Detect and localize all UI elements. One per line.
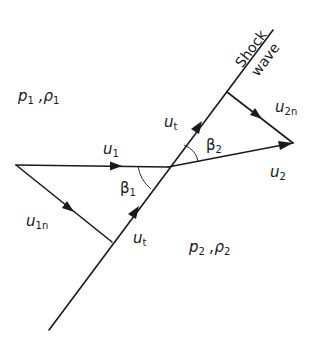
oblique-shock-diagram: Shock wave p1 ,ρ1 p2 ,ρ2 u1 u1n ut ut β1… xyxy=(0,0,313,340)
beta2-label: β2 xyxy=(206,136,222,155)
u1-label: u1 xyxy=(103,140,119,159)
u2-arrowhead xyxy=(278,141,293,150)
ut-upper-label: ut xyxy=(164,113,178,132)
ut-upper-arrowhead xyxy=(191,121,202,134)
u1-arrowhead xyxy=(110,162,122,171)
shock-wave-line xyxy=(49,30,273,330)
beta1-label: β1 xyxy=(120,179,136,198)
region1-state-label: p1 ,ρ1 xyxy=(17,87,59,106)
ut-lower-label: ut xyxy=(133,229,147,248)
region2-state-label: p2 ,ρ2 xyxy=(188,238,230,257)
ut-lower-arrowhead xyxy=(128,206,139,219)
beta1-angle-arc xyxy=(138,166,151,189)
u1n-label: u1n xyxy=(26,212,48,231)
u1-vector xyxy=(16,165,168,167)
shock-wave-label: Shock wave xyxy=(232,26,285,81)
u1n-vector xyxy=(16,165,112,242)
u2n-label: u2n xyxy=(275,98,297,117)
u2-label: u2 xyxy=(270,163,286,182)
u2n-arrowhead xyxy=(250,108,262,119)
